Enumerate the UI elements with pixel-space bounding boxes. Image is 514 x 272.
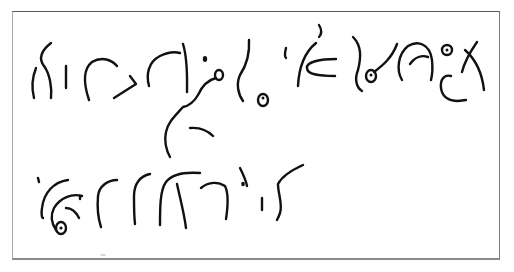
- handwriting-line-1: [33, 25, 484, 157]
- handwriting-canvas: [0, 0, 514, 272]
- handwriting-line-2: [38, 165, 303, 255]
